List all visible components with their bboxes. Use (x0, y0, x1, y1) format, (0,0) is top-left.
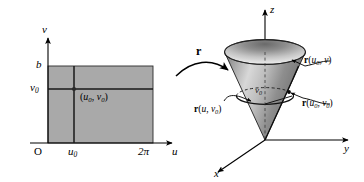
u-axis-label: u (172, 146, 178, 157)
leader-r-u-v0 (224, 96, 241, 101)
callout-r-u0-v0: r(u0, v0) (302, 99, 333, 109)
tick-label-b: b (36, 59, 42, 70)
callout-r-u-v0: r(u, v0) (194, 105, 222, 115)
z-axis-label: z (270, 4, 274, 15)
tick-label-v0: v0 (30, 82, 39, 93)
point-label-u0-v0: (u0, v0) (80, 92, 108, 102)
parametric-surface-figure: v u O b v0 u0 2π (u0, v0) r z y x v0 r(u… (0, 0, 364, 182)
y-axis-label: y (344, 143, 349, 154)
tick-label-u0: u0 (68, 146, 77, 157)
figure-canvas (0, 0, 364, 182)
v-axis-label: v (42, 24, 47, 35)
r-arrow-path (176, 62, 228, 76)
callout-r-u0-v: r(u0, v) (304, 56, 332, 66)
x-axis-label: x (214, 168, 219, 179)
x-axis (218, 140, 265, 172)
cone-group (218, 10, 348, 172)
inner-label-v0: v0 (255, 86, 262, 95)
mapping-arrow-group (176, 62, 228, 76)
origin-label: O (34, 146, 42, 157)
mapping-label-r: r (196, 45, 201, 57)
point-u0-v0-marker (72, 87, 76, 91)
parameter-rectangle (48, 66, 153, 143)
tick-label-2pi: 2π (138, 146, 149, 157)
point-on-surface-marker (287, 90, 291, 94)
